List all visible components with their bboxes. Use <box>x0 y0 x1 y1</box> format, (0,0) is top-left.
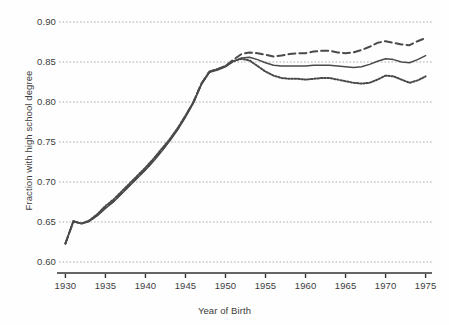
series-line-solid <box>65 56 425 244</box>
series-line-dashed <box>65 38 425 244</box>
chart-figure: Fraction with high school degree 0.600.6… <box>0 0 449 325</box>
series-line-dotted <box>65 59 425 244</box>
data-series-layer <box>65 38 425 244</box>
x-axis-label: Year of Birth <box>0 305 449 316</box>
x-tick-marks <box>65 274 425 278</box>
plot-area <box>0 0 449 325</box>
